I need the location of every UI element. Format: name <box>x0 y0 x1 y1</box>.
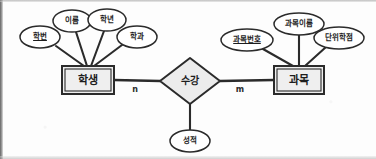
connector-subject-to-credit <box>305 47 326 66</box>
attribute-student-name-shape[interactable] <box>53 10 91 32</box>
relationship-enrollment-shape[interactable] <box>160 58 220 104</box>
connector-student-to-student-id <box>56 46 84 66</box>
attribute-subject-name-shape[interactable] <box>274 13 324 35</box>
attribute-student-id-shape[interactable] <box>20 26 60 48</box>
attribute-department-shape[interactable] <box>117 26 157 48</box>
er-diagram-graphics <box>0 0 376 159</box>
attribute-school-year-shape[interactable] <box>88 9 126 31</box>
er-diagram-canvas: 학생 과목 수강 학번 이름 학년 학과 과목번호 과목이름 단위학점 성적 n… <box>0 0 376 159</box>
entity-student-shape[interactable] <box>62 66 114 94</box>
connector-group-student-attributes <box>56 31 122 66</box>
entity-subject-shape[interactable] <box>274 66 324 94</box>
attribute-score-shape[interactable] <box>170 130 210 152</box>
attribute-subject-no-shape[interactable] <box>221 29 273 51</box>
attribute-credit-shape[interactable] <box>314 27 364 49</box>
connector-enrollment-to-subject <box>220 80 274 81</box>
connector-subject-to-subject-no <box>263 49 293 66</box>
connector-student-to-enrollment <box>114 80 160 81</box>
